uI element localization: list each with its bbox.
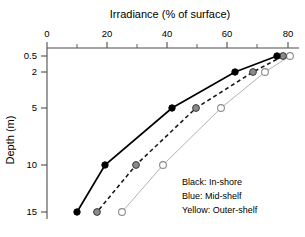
x-tick-label-20: 20 [102, 28, 113, 39]
data-point-in-shore [74, 209, 80, 215]
series-outer-shelf-line [122, 56, 290, 212]
data-point-outer-shelf [160, 162, 167, 169]
data-point-outer-shelf [287, 53, 294, 60]
irradiance-depth-chart: Irradiance (% of surface) Depth (m) 0 20… [0, 0, 305, 237]
data-point-mid-shelf [133, 162, 140, 169]
data-point-in-shore [169, 105, 175, 111]
x-tick-label-0: 0 [44, 28, 49, 39]
data-point-in-shore [232, 69, 238, 75]
chart-figure: Irradiance (% of surface) Depth (m) 0 20… [0, 0, 305, 237]
legend-item-mid-shelf: Blue: Mid-shelf [182, 191, 242, 201]
x-axis-title: Irradiance (% of surface) [110, 8, 230, 20]
data-point-in-shore [274, 53, 280, 59]
legend-item-in-shore: Black: In-shore [182, 177, 242, 187]
y-tick-label-5: 5 [32, 102, 37, 113]
data-point-outer-shelf [218, 105, 225, 112]
data-point-outer-shelf [262, 69, 269, 76]
y-tick-label-0.5: 0.5 [24, 50, 37, 61]
data-point-in-shore [102, 162, 108, 168]
x-tick-label-80: 80 [283, 28, 294, 39]
x-tick-label-40: 40 [162, 28, 173, 39]
series-in-shore [74, 53, 280, 215]
data-point-mid-shelf [94, 209, 101, 216]
data-point-mid-shelf [250, 69, 257, 76]
chart-legend: Black: In-shore Blue: Mid-shelf Yellow: … [182, 177, 258, 215]
y-tick-label-2: 2 [32, 66, 37, 77]
series-in-shore-line [77, 56, 277, 212]
y-tick-label-10: 10 [26, 159, 37, 170]
x-tick-label-60: 60 [222, 28, 233, 39]
data-point-mid-shelf [193, 105, 200, 112]
data-point-outer-shelf [119, 209, 126, 216]
legend-item-outer-shelf: Yellow: Outer-shelf [182, 205, 258, 215]
y-axis-title: Depth (m) [4, 116, 16, 165]
series-mid-shelf-line [97, 56, 283, 212]
y-tick-label-15: 15 [26, 206, 37, 217]
